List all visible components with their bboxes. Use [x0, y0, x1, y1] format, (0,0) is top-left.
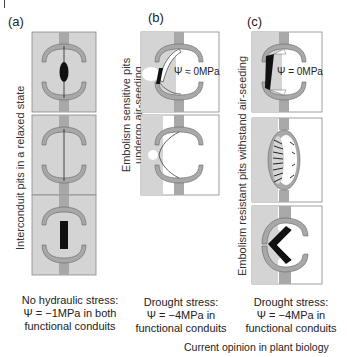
caption-c-line1: Drought stress: — [238, 296, 344, 309]
panel-a-box-2 — [32, 115, 96, 195]
panel-a-box-1 — [32, 32, 96, 112]
caption-b-line2: Ψ = −4MPa in — [128, 309, 234, 322]
panel-a-box-3 — [32, 195, 96, 275]
caption-c-line3: functional conduits — [238, 322, 344, 335]
panel-c-box-3 — [252, 206, 322, 284]
psi-label-c: Ψ = 0MPa — [277, 66, 323, 77]
journal-credit: Current opinion in plant biology — [184, 341, 329, 353]
caption-b: Drought stress: Ψ = −4MPa in functional … — [128, 296, 234, 335]
caption-a-line3: functional conduits — [10, 320, 130, 333]
caption-a: No hydraulic stress: Ψ = −1MPa in both f… — [10, 294, 130, 333]
caption-a-line1: No hydraulic stress: — [10, 294, 130, 307]
caption-a-line2: Ψ = −1MPa in both — [10, 307, 130, 320]
panel-b-box-2 — [141, 115, 219, 195]
caption-b-line1: Drought stress: — [128, 296, 234, 309]
psi-label-b: Ψ ≈ 0MPa — [174, 66, 220, 77]
caption-c: Drought stress: Ψ = −4MPa in functional … — [238, 296, 344, 335]
panel-c-box-2 — [252, 118, 322, 202]
caption-b-line3: functional conduits — [128, 322, 234, 335]
caption-c-line2: Ψ = −4MPa in — [238, 309, 344, 322]
